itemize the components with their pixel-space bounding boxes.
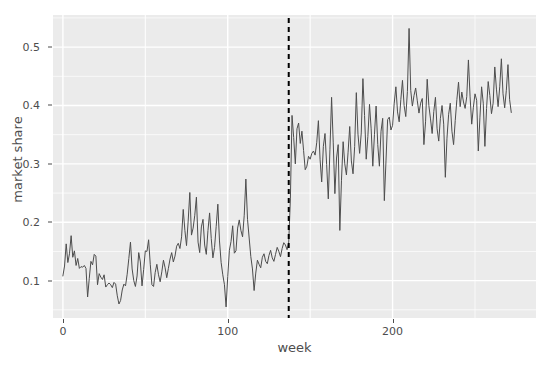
y-tick-mark: [48, 163, 52, 164]
y-tick-mark: [48, 280, 52, 281]
x-axis-title: week: [53, 340, 536, 355]
y-tick-mark: [48, 222, 52, 223]
y-axis-ticks: 0.10.20.30.40.5: [0, 0, 46, 366]
y-tick-label: 0.2: [23, 216, 41, 229]
plot-panel: [53, 15, 536, 318]
y-tick-label: 0.1: [23, 274, 41, 287]
market-share-chart: market share 0.10.20.30.40.5 0100200 wee…: [0, 0, 553, 366]
y-tick-label: 0.5: [23, 41, 41, 54]
x-tick-mark: [63, 319, 64, 323]
y-tick-label: 0.3: [23, 157, 41, 170]
x-tick-label: 0: [59, 325, 66, 338]
x-tick-label: 100: [217, 325, 238, 338]
x-tick-label: 200: [382, 325, 403, 338]
y-tick-label: 0.4: [23, 99, 41, 112]
x-tick-mark: [228, 319, 229, 323]
x-tick-mark: [393, 319, 394, 323]
panel-background: [53, 15, 536, 318]
y-tick-mark: [48, 105, 52, 106]
y-tick-mark: [48, 47, 52, 48]
